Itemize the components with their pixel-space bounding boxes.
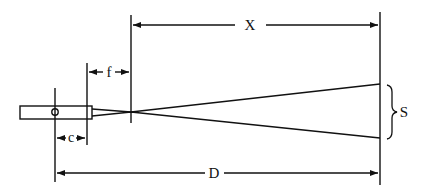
label-s: S [400, 104, 408, 120]
beam-diagram: X f c D S [0, 0, 425, 192]
label-d: D [209, 165, 220, 181]
label-x: X [245, 17, 256, 33]
beam-upper [92, 84, 380, 112]
label-c: c [68, 130, 74, 145]
beam-lower [92, 112, 380, 138]
label-f: f [107, 64, 112, 80]
laser-tube [20, 106, 92, 119]
s-brace [387, 85, 397, 139]
